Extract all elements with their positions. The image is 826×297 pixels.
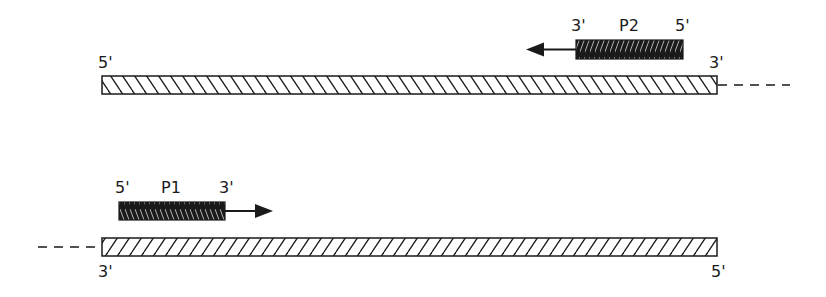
bottom-strand — [38, 238, 717, 256]
primer-p1-left-end-label: 5' — [115, 180, 130, 196]
primer-diagram — [0, 0, 826, 297]
top-strand-right-end-label: 3' — [709, 55, 724, 71]
primer-p2-right-end-label: 5' — [675, 18, 690, 34]
primer-p2-name-label: P2 — [619, 18, 639, 34]
bottom-strand-left-end-label: 3' — [98, 264, 113, 280]
bottom-strand-right-end-label: 5' — [711, 264, 726, 280]
primer-p2 — [526, 40, 683, 59]
arrow-right-icon — [255, 204, 273, 218]
top-strand-left-end-label: 5' — [98, 55, 113, 71]
primer-p1-right-end-label: 3' — [219, 180, 234, 196]
primer-p2-left-end-label: 3' — [571, 18, 586, 34]
bottom-strand-bar — [102, 238, 717, 256]
top-strand-bar — [102, 76, 717, 94]
arrow-left-icon — [526, 43, 544, 57]
primer-p1-name-label: P1 — [161, 180, 181, 196]
primer-p1-bar — [119, 202, 225, 220]
top-strand — [102, 76, 790, 94]
primer-p1 — [119, 202, 273, 220]
primer-p2-bar — [576, 40, 683, 59]
